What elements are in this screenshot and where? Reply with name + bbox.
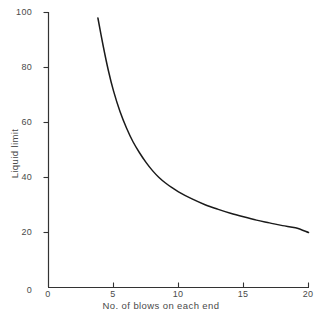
- x-tick-label-0: 0: [36, 289, 60, 299]
- x-tick-label-20: 20: [296, 289, 320, 299]
- plot-area: [0, 0, 322, 317]
- x-tick-label-10: 10: [166, 289, 190, 299]
- chart-figure: 100 80 60 40 20 0 0 5 10 15 20 Liquid li…: [0, 0, 322, 317]
- x-tick-label-15: 15: [231, 289, 255, 299]
- y-tick-label-100: 100: [8, 7, 32, 17]
- x-axis-label: No. of blows on each end: [0, 300, 322, 311]
- y-tick-label-0: 0: [8, 285, 32, 295]
- y-axis-ticks: [44, 13, 49, 233]
- x-axis-ticks: [114, 283, 309, 288]
- y-tick-label-80: 80: [8, 62, 32, 72]
- y-axis-label: Liquid limit: [9, 119, 20, 189]
- x-tick-label-5: 5: [101, 289, 125, 299]
- y-tick-label-20: 20: [8, 227, 32, 237]
- flow-curve-line: [98, 18, 309, 233]
